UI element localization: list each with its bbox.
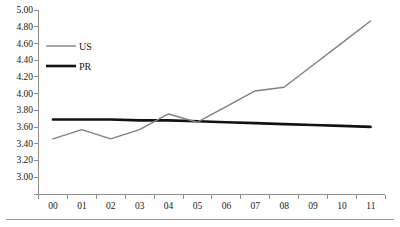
y-tick-label: 3.60	[16, 122, 33, 132]
x-tick-label: 00	[48, 201, 58, 211]
y-tick-label: 3.20	[16, 155, 33, 165]
y-tick-label: 3.00	[16, 172, 33, 182]
y-tick-label: 3.40	[16, 139, 33, 149]
line-chart-figure: 5.00 4.80 4.60 4.40 4.20 4.00 3.80 3.60 …	[0, 0, 400, 227]
x-tick-label: 01	[77, 201, 87, 211]
x-tick-label: 07	[251, 201, 261, 211]
x-tick-label: 10	[337, 201, 347, 211]
x-tick-label: 08	[279, 201, 289, 211]
y-tick-label: 4.40	[16, 55, 33, 65]
y-tick-label: 4.00	[16, 89, 33, 99]
y-tick-label: 3.80	[16, 105, 33, 115]
y-tick-label: 4.60	[16, 39, 33, 49]
y-tick-label: 4.20	[16, 72, 33, 82]
chart-canvas: 5.00 4.80 4.60 4.40 4.20 4.00 3.80 3.60 …	[0, 0, 400, 227]
x-tick-label: 09	[308, 201, 318, 211]
x-tick-label: 04	[164, 201, 174, 211]
y-tick-label: 4.80	[16, 22, 33, 32]
legend-label-us: US	[79, 41, 92, 52]
x-tick-label: 05	[193, 201, 203, 211]
x-tick-label: 03	[135, 201, 145, 211]
x-tick-label: 06	[222, 201, 232, 211]
x-tick-label: 02	[106, 201, 116, 211]
legend-label-pr: PR	[79, 61, 92, 72]
chart-legend: US PR	[46, 41, 92, 72]
x-tick-label: 11	[366, 201, 375, 211]
series-line-pr	[53, 119, 371, 126]
y-tick-label: 5.00	[16, 5, 33, 15]
